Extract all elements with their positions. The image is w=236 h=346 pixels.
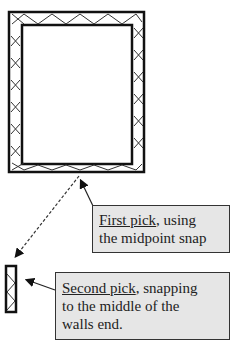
main-wall xyxy=(9,12,144,172)
callout-2-line1: , snapping xyxy=(136,280,198,296)
small-wall-end xyxy=(6,266,16,312)
callout-first-pick: First pick, using the midpoint snap xyxy=(92,205,230,253)
callout-1-emphasis: First pick xyxy=(99,212,156,228)
callout-2-emphasis: Second pick xyxy=(62,280,136,296)
callout-2-line2: to the middle of the xyxy=(62,298,179,314)
callout-second-pick: Second pick, snapping to the middle of t… xyxy=(55,272,230,340)
callout-1-line1: , using xyxy=(156,212,196,228)
callout-2-line3: walls end. xyxy=(62,316,123,332)
callout-1-line2: the midpoint snap xyxy=(99,230,207,246)
callout-1-arrow xyxy=(81,181,93,206)
callout-2-arrow xyxy=(27,280,55,290)
dashed-move-line xyxy=(16,176,79,256)
